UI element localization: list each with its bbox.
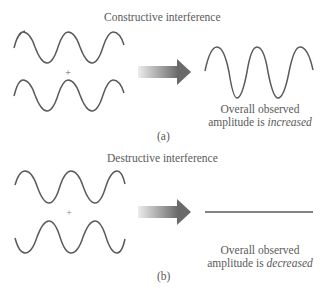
panel-b-result-prefix: amplitude is bbox=[207, 257, 266, 269]
wave-a-result bbox=[205, 47, 313, 98]
panel-a-result-emph: increased bbox=[268, 116, 312, 128]
arrow-icon-a bbox=[138, 59, 191, 85]
arrow-icon-b bbox=[138, 199, 191, 225]
panel-a-result-line1: Overall observed bbox=[198, 103, 322, 116]
panel-a-result-prefix: amplitude is bbox=[208, 116, 267, 128]
panel-b-result-text: Overall observed amplitude is decreased bbox=[198, 244, 322, 270]
panel-a-title: Constructive interference bbox=[104, 11, 221, 23]
panel-b-caption: (b) bbox=[157, 270, 170, 282]
panel-a-caption: (a) bbox=[157, 130, 170, 142]
wave-a-bottom bbox=[14, 80, 124, 111]
panel-b-title: Destructive interference bbox=[107, 152, 218, 164]
plus-sign-a: + bbox=[65, 67, 71, 78]
panel-b-result-line2: amplitude is decreased bbox=[198, 257, 322, 270]
panel-b-result-line1: Overall observed bbox=[198, 244, 322, 257]
plus-sign-b: + bbox=[66, 207, 72, 218]
panel-a-result-line2: amplitude is increased bbox=[198, 116, 322, 129]
wave-a-top bbox=[14, 31, 124, 63]
panel-a-result-text: Overall observed amplitude is increased bbox=[198, 103, 322, 129]
wave-b-top bbox=[15, 171, 125, 203]
wave-b-bottom bbox=[15, 221, 125, 253]
panel-b-result-emph: decreased bbox=[267, 257, 313, 269]
